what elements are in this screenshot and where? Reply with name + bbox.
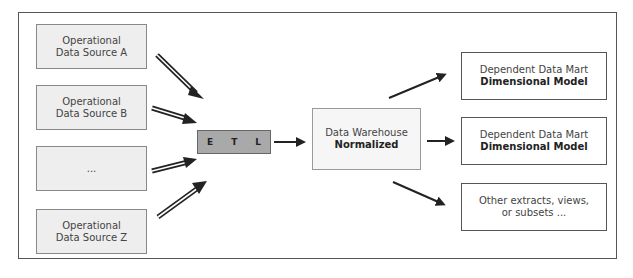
arrow-to-other-extracts-icon	[393, 182, 443, 204]
arrow-to-mart-1-icon	[389, 75, 444, 98]
double-arrow-a-icon	[157, 55, 204, 99]
double-arrow-ellipsis-icon	[152, 157, 197, 171]
flow-arrows	[0, 0, 633, 278]
double-arrow-b-icon	[152, 108, 197, 124]
double-arrow-z-icon	[158, 181, 207, 217]
